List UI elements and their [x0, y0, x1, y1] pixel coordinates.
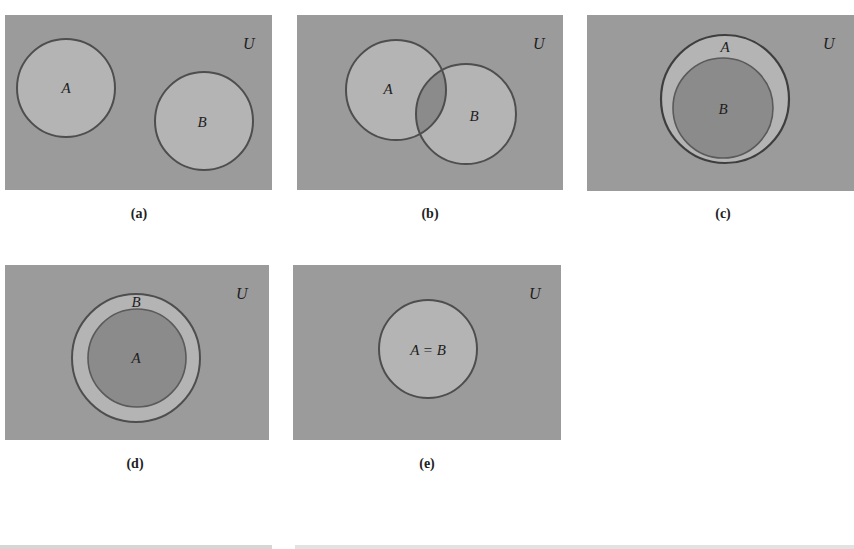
- panel-a: U A B (a): [5, 15, 272, 222]
- panel-d: U B A (d): [5, 265, 269, 472]
- caption-c: (c): [715, 206, 731, 222]
- universe-label: U: [533, 35, 546, 52]
- set-a-label: A: [719, 39, 730, 55]
- set-b-label: B: [197, 114, 206, 130]
- caption-e: (e): [419, 456, 435, 472]
- bottom-strip-right: [295, 545, 854, 549]
- panel-b: U A B (b): [297, 15, 563, 222]
- set-b-label: B: [469, 108, 478, 124]
- caption-d: (d): [126, 456, 143, 472]
- panel-c: U A B (c): [587, 15, 854, 222]
- universe-label: U: [529, 285, 542, 302]
- set-a-equals-b-label: A = B: [409, 342, 446, 358]
- universe-label: U: [823, 35, 836, 52]
- set-b-label: B: [131, 294, 140, 310]
- caption-a: (a): [131, 206, 148, 222]
- set-a-label: A: [382, 81, 393, 97]
- venn-diagram-figure: U A B (a) U A B (b) U A B (c) U B A (d): [0, 0, 854, 549]
- panel-e: U A = B (e): [293, 265, 561, 472]
- set-a-label: A: [60, 80, 71, 96]
- set-b-label: B: [718, 101, 727, 117]
- caption-b: (b): [421, 206, 438, 222]
- universe-label: U: [236, 285, 249, 302]
- bottom-strip-left: [0, 545, 272, 549]
- universe-label: U: [243, 35, 256, 52]
- set-a-label: A: [130, 350, 141, 366]
